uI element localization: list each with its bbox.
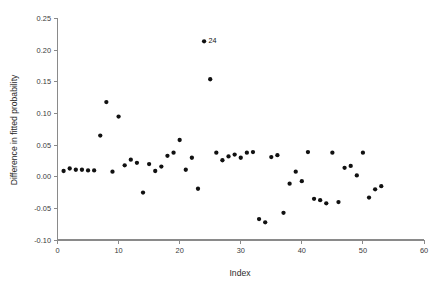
y-axis: -0.10-0.050.000.050.100.150.200.25 (34, 14, 57, 245)
data-point (184, 168, 188, 172)
data-point (245, 151, 249, 155)
point-annotations: 24 (209, 36, 217, 45)
data-point (165, 154, 169, 158)
data-point (220, 158, 224, 162)
data-point (190, 156, 194, 160)
data-point (232, 152, 236, 156)
data-point (287, 182, 291, 186)
data-points (61, 39, 383, 224)
data-point (92, 168, 96, 172)
x-tick-label: 30 (237, 246, 245, 255)
data-point (330, 151, 334, 155)
data-point (214, 151, 218, 155)
data-point (281, 211, 285, 215)
data-point (312, 197, 316, 201)
data-point (68, 166, 72, 170)
y-tick-label: 0.10 (37, 109, 51, 118)
data-point (153, 169, 157, 173)
data-point (306, 150, 310, 154)
data-point (379, 184, 383, 188)
data-point-label: 24 (209, 36, 217, 45)
data-point (61, 169, 65, 173)
data-point (324, 201, 328, 205)
x-tick-label: 0 (55, 246, 59, 255)
data-point (342, 166, 346, 170)
data-point (373, 187, 377, 191)
data-point (202, 39, 206, 43)
data-point (263, 220, 267, 224)
data-point (300, 179, 304, 183)
scatter-plot-figure: -0.10-0.050.000.050.100.150.200.25 01020… (0, 0, 441, 285)
y-axis-ticks: -0.10-0.050.000.050.100.150.200.25 (34, 14, 57, 245)
data-point (110, 170, 114, 174)
data-point (349, 164, 353, 168)
x-tick-label: 20 (176, 246, 184, 255)
y-axis-title: Difference in fitted probability (9, 74, 19, 185)
x-axis: 0102030405060 (55, 240, 428, 255)
y-tick-label: 0.15 (37, 77, 51, 86)
data-point (196, 187, 200, 191)
data-point (294, 170, 298, 174)
data-point (275, 153, 279, 157)
y-tick-label: 0.00 (37, 172, 51, 181)
data-point (269, 155, 273, 159)
data-point (86, 168, 90, 172)
data-point (123, 163, 127, 167)
data-point (178, 138, 182, 142)
data-point (361, 151, 365, 155)
data-point (104, 100, 108, 104)
x-tick-label: 60 (420, 246, 428, 255)
data-point (336, 200, 340, 204)
data-point (239, 156, 243, 160)
x-axis-ticks: 0102030405060 (55, 240, 428, 255)
data-point (80, 168, 84, 172)
x-tick-label: 40 (298, 246, 306, 255)
data-point (98, 133, 102, 137)
y-tick-label: -0.10 (34, 236, 51, 245)
x-tick-label: 10 (114, 246, 122, 255)
data-point (251, 150, 255, 154)
data-point (226, 154, 230, 158)
data-point (135, 161, 139, 165)
data-point (141, 190, 145, 194)
data-point (129, 157, 133, 161)
data-point (257, 217, 261, 221)
data-point (159, 164, 163, 168)
y-tick-label: -0.05 (34, 204, 51, 213)
data-point (171, 151, 175, 155)
plot-canvas: -0.10-0.050.000.050.100.150.200.25 01020… (0, 0, 441, 285)
data-point (367, 195, 371, 199)
data-point (208, 77, 212, 81)
y-tick-label: 0.05 (37, 141, 51, 150)
x-tick-label: 50 (359, 246, 367, 255)
y-tick-label: 0.25 (37, 14, 51, 23)
data-point (116, 114, 120, 118)
data-point (318, 198, 322, 202)
data-point (74, 168, 78, 172)
data-point (355, 173, 359, 177)
data-point (147, 162, 151, 166)
y-tick-label: 0.20 (37, 46, 51, 55)
x-axis-title: Index (229, 268, 251, 278)
